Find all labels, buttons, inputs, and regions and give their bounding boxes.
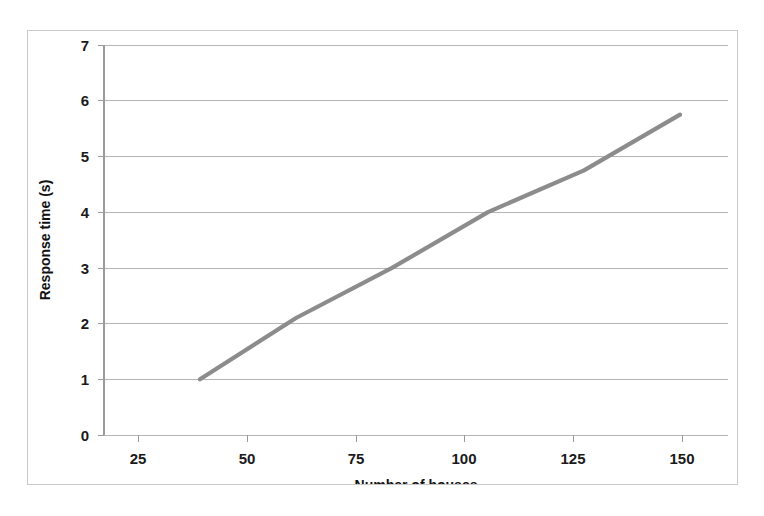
x-tick-label-100: 100 <box>451 450 476 467</box>
data-series-response-time <box>200 115 680 380</box>
y-tick-marks <box>98 45 104 435</box>
y-tick-label-7: 7 <box>81 37 89 54</box>
y-tick-label-3: 3 <box>81 260 89 277</box>
y-tick-label-5: 5 <box>81 148 89 165</box>
chart-frame: 7 6 5 4 3 2 1 0 25 50 75 100 125 150 <box>27 30 738 485</box>
x-tick-label-50: 50 <box>239 450 256 467</box>
x-tick-label-150: 150 <box>669 450 694 467</box>
x-tick-labels: 25 50 75 100 125 150 <box>130 450 695 467</box>
line-chart: 7 6 5 4 3 2 1 0 25 50 75 100 125 150 <box>28 31 737 484</box>
y-tick-label-2: 2 <box>81 315 89 332</box>
x-tick-label-125: 125 <box>560 450 585 467</box>
x-tick-label-75: 75 <box>348 450 365 467</box>
y-tick-label-1: 1 <box>81 371 89 388</box>
y-tick-label-6: 6 <box>81 92 89 109</box>
y-tick-label-0: 0 <box>81 427 89 444</box>
x-tick-marks <box>138 435 682 442</box>
x-tick-label-25: 25 <box>130 450 147 467</box>
figure-canvas: 7 6 5 4 3 2 1 0 25 50 75 100 125 150 <box>0 0 764 516</box>
y-tick-label-4: 4 <box>81 204 90 221</box>
grid-lines <box>104 45 728 435</box>
y-tick-labels: 7 6 5 4 3 2 1 0 <box>81 37 90 444</box>
